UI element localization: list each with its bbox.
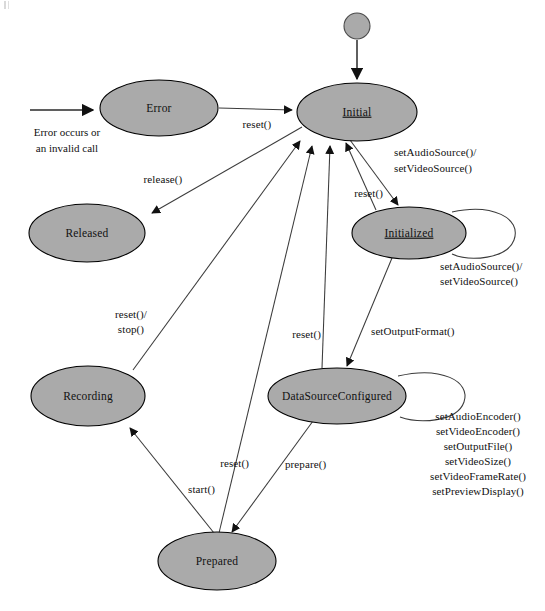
state-node-datasourceconfigured[interactable]: DataSourceConfigured bbox=[268, 368, 406, 424]
state-node-initial[interactable]: Initial bbox=[297, 83, 417, 141]
state-label-error: Error bbox=[146, 102, 171, 114]
method-setvideoencoder: setVideoEncoder() bbox=[436, 425, 520, 438]
transition-initialized-to-dsc: setOutputFormat() bbox=[347, 258, 455, 366]
edge-label-initialized-self-line2: setVideoSource() bbox=[440, 275, 518, 288]
edge-label-initialized-self-line1: setAudioSource()/ bbox=[440, 260, 523, 273]
state-machine-diagram: reset() release() setAudioSource()/ setV… bbox=[0, 0, 545, 611]
state-label-recording: Recording bbox=[63, 390, 113, 403]
transition-initialized-to-initial: reset() bbox=[346, 143, 383, 210]
transition-dsc-self-loop: setAudioEncoder() setVideoEncoder() setO… bbox=[398, 373, 526, 498]
edge-label-dsc-reset: reset() bbox=[292, 328, 321, 341]
states-layer: Error Initial Released Initialized Recor… bbox=[29, 13, 466, 590]
transition-prepared-to-recording: start() bbox=[130, 428, 215, 533]
method-setaudioencoder: setAudioEncoder() bbox=[435, 410, 521, 423]
edge-label-release: release() bbox=[144, 173, 183, 186]
transition-dsc-to-prepared: prepare() bbox=[232, 421, 326, 532]
method-setoutputfile: setOutputFile() bbox=[444, 440, 513, 453]
state-node-recording[interactable]: Recording bbox=[31, 366, 145, 426]
edge-label-recording-stop: stop() bbox=[118, 323, 144, 336]
edge-label-setsource-line1: setAudioSource()/ bbox=[394, 146, 477, 159]
edge-label-error-reset: reset() bbox=[243, 118, 272, 131]
edge-label-prepare: prepare() bbox=[285, 458, 326, 471]
edge-label-initialized-reset: reset() bbox=[354, 187, 383, 200]
state-label-released: Released bbox=[65, 227, 108, 239]
state-diagram-canvas: reset() release() setAudioSource()/ setV… bbox=[0, 0, 545, 611]
note-error-source-line2: an invalid call bbox=[36, 142, 98, 154]
dsc-self-loop-method-list: setAudioEncoder() setVideoEncoder() setO… bbox=[430, 410, 526, 498]
state-node-released[interactable]: Released bbox=[29, 204, 145, 262]
initial-pseudostate-node[interactable] bbox=[344, 13, 370, 39]
note-error-source-line1: Error occurs or bbox=[34, 126, 101, 138]
edge-label-prepared-reset: reset() bbox=[220, 457, 249, 470]
edge-label-setoutputformat: setOutputFormat() bbox=[371, 325, 455, 338]
state-node-error[interactable]: Error bbox=[100, 80, 218, 136]
transition-error-to-initial: reset() bbox=[219, 108, 292, 131]
edge-label-setsource-line2: setVideoSource() bbox=[394, 162, 472, 175]
state-node-prepared[interactable]: Prepared bbox=[158, 532, 276, 590]
transition-dsc-to-initial: reset() bbox=[292, 146, 330, 368]
method-setvideoframerate: setVideoFrameRate() bbox=[430, 470, 526, 483]
edge-label-start: start() bbox=[188, 483, 215, 496]
scan-artifact bbox=[4, 1, 18, 9]
state-label-initialized: Initialized bbox=[385, 227, 434, 239]
method-setpreviewdisplay: setPreviewDisplay() bbox=[432, 485, 524, 498]
state-label-datasourceconfigured: DataSourceConfigured bbox=[282, 390, 392, 403]
state-label-prepared: Prepared bbox=[196, 555, 239, 568]
state-node-initialized[interactable]: Initialized bbox=[352, 207, 466, 259]
edge-label-recording-reset: reset()/ bbox=[115, 308, 148, 321]
state-label-initial: Initial bbox=[343, 106, 372, 118]
method-setvideosize: setVideoSize() bbox=[445, 455, 511, 468]
notes-layer: Error occurs or an invalid call bbox=[34, 126, 101, 154]
